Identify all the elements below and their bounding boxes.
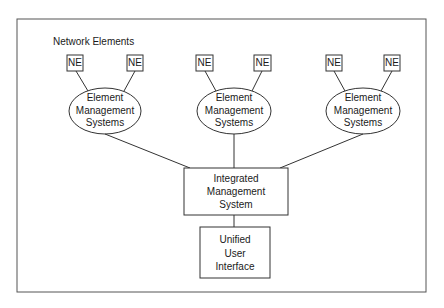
ne-label: NE [326,55,342,71]
connector-line [105,134,190,168]
ems-line: Management [65,105,145,118]
ems-line: Systems [323,117,403,130]
connector-line [124,71,135,91]
uui-line: User [200,247,270,261]
ems-label: Element Management Systems [194,92,274,130]
ims-line: Integrated [184,172,288,185]
ne-label: NE [254,55,271,71]
ems-line: Element [194,92,274,105]
ims-line: Management [184,185,288,198]
ne-label: NE [127,55,143,71]
ems-line: Element [323,92,403,105]
ems-line: Management [194,105,274,118]
ems-line: Systems [65,117,145,130]
network-elements-label: Network Elements [53,36,134,47]
ems-line: Management [323,105,403,118]
ems-label: Element Management Systems [65,92,145,130]
ems-line: Systems [194,117,274,130]
ems-line: Element [65,92,145,105]
connector-line [280,134,363,168]
uui-line: Interface [200,260,270,274]
ne-label: NE [384,55,400,71]
connector-line [76,71,88,91]
uui-line: Unified [200,233,270,247]
connector-line [334,71,345,91]
uui-label: Unified User Interface [200,233,270,274]
connector-line [205,71,216,91]
connector-line [252,71,262,91]
ne-label: NE [196,55,213,71]
ims-label: Integrated Management System [184,172,288,211]
ims-line: System [184,198,288,211]
connector-line [381,71,392,91]
ne-label: NE [67,55,83,71]
ems-label: Element Management Systems [323,92,403,130]
